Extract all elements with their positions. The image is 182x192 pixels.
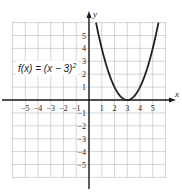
function-label: f(x) = (x − 3)2: [18, 62, 76, 74]
x-tick-label: 2: [113, 104, 117, 113]
x-tick-label: −4: [34, 104, 43, 113]
y-tick-label: −2: [77, 122, 86, 131]
y-tick-label: −1: [77, 109, 86, 118]
y-tick-label: 4: [82, 44, 86, 53]
x-tick-label: 1: [100, 104, 104, 113]
x-tick-label: −2: [59, 104, 68, 113]
x-tick-label: 3: [125, 104, 129, 113]
function-graph: −5−4−3−2−11234554321−1−2−3−4−5 x y f(x) …: [0, 0, 182, 192]
y-tick-label: −5: [77, 161, 86, 170]
y-tick-label: −3: [77, 135, 86, 144]
axes: [2, 11, 176, 189]
y-tick-label: −4: [77, 148, 86, 157]
y-axis-arrow-icon: [87, 11, 92, 18]
x-tick-label: 4: [138, 104, 142, 113]
x-tick-label: −3: [46, 104, 55, 113]
x-tick-label: 5: [151, 104, 155, 113]
function-label-exponent: 2: [71, 62, 76, 69]
y-tick-label: 5: [82, 32, 86, 41]
y-tick-label: 2: [82, 70, 86, 79]
x-tick-label: −5: [21, 104, 30, 113]
y-tick-label: 1: [82, 83, 86, 92]
y-tick-label: 3: [82, 57, 86, 66]
y-axis-label: y: [92, 9, 97, 19]
function-label-text: f(x) = (x − 3): [18, 63, 72, 74]
x-axis-label: x: [174, 89, 179, 99]
